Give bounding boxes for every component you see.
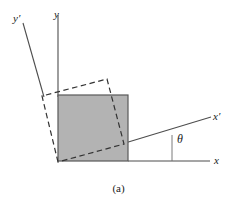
figure-drawing bbox=[0, 0, 237, 206]
figure-container: y′ y x′ x θ (a) bbox=[0, 0, 237, 206]
x-prime-axis-line bbox=[125, 117, 211, 143]
figure-caption: (a) bbox=[0, 183, 237, 194]
theta-angle-label: θ bbox=[177, 133, 183, 145]
x-prime-axis-label: x′ bbox=[213, 111, 220, 122]
x-axis-label: x bbox=[214, 155, 219, 166]
y-prime-axis-label: y′ bbox=[13, 13, 20, 24]
y-prime-axis-line bbox=[23, 23, 44, 97]
shaded-square bbox=[58, 95, 128, 161]
y-axis-label: y bbox=[54, 9, 59, 20]
